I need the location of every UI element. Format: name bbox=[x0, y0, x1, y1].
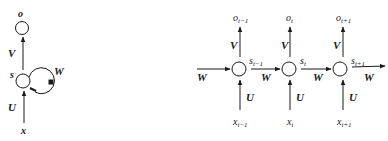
output-node bbox=[16, 22, 29, 35]
state-label-t: st bbox=[300, 56, 306, 68]
v-label-t-1: V bbox=[230, 40, 237, 51]
w-label-1: W bbox=[261, 72, 271, 83]
output-label-t: ot bbox=[286, 13, 293, 25]
output-label: o bbox=[18, 9, 23, 19]
input-label-t+1: xt+1 bbox=[337, 117, 352, 129]
folded-rnn bbox=[16, 22, 55, 124]
w-label-2: W bbox=[313, 72, 323, 83]
state-node-t+1 bbox=[333, 62, 347, 76]
output-label-t+1: ot+1 bbox=[336, 13, 351, 25]
u-label-t: U bbox=[296, 92, 304, 103]
v-label-t: V bbox=[281, 40, 288, 51]
delay-square-icon bbox=[49, 80, 53, 84]
state-label: s bbox=[10, 70, 14, 80]
v-label-t+1: V bbox=[333, 40, 340, 51]
output-label-t-1: ot−1 bbox=[233, 13, 248, 25]
input-label-t: xt bbox=[287, 117, 293, 129]
v-label: V bbox=[8, 48, 15, 59]
state-label-t-1: st−1 bbox=[249, 56, 263, 68]
u-label-t+1: U bbox=[349, 92, 357, 103]
state-node-t bbox=[282, 62, 296, 76]
u-label: U bbox=[8, 102, 16, 113]
input-label-t-1: xt−1 bbox=[233, 117, 248, 129]
w-label-out: W bbox=[364, 72, 374, 83]
w-label-in: W bbox=[197, 72, 207, 83]
loop-arrowhead bbox=[30, 88, 36, 91]
input-label: x bbox=[21, 126, 26, 136]
state-label-t+1: st+1 bbox=[351, 56, 365, 68]
w-label: W bbox=[54, 66, 64, 77]
state-node bbox=[16, 74, 30, 88]
u-label-t-1: U bbox=[246, 92, 254, 103]
state-node-t-1 bbox=[232, 62, 246, 76]
